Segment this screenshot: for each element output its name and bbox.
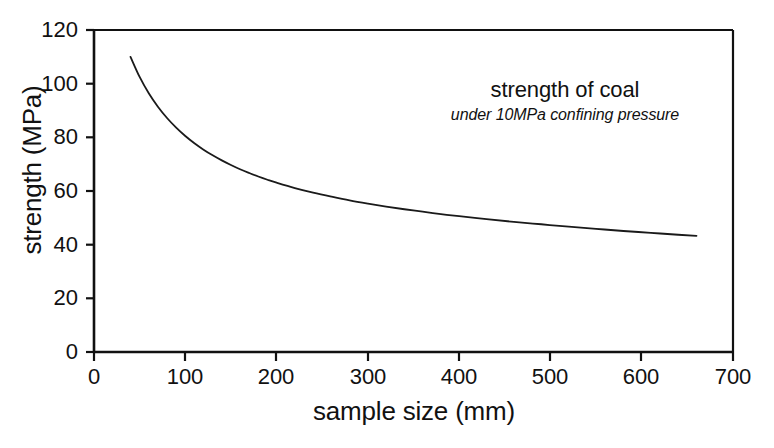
y-tick-label-80: 80 <box>16 124 78 150</box>
chart-figure-root: 120 100 80 60 40 20 0 0 100 200 300 400 … <box>0 0 774 448</box>
y-tick-label-0: 0 <box>16 339 78 365</box>
y-tick-label-20: 20 <box>16 285 78 311</box>
x-tick-label-500: 500 <box>532 364 569 390</box>
y-tick-label-100: 100 <box>16 71 78 97</box>
x-tick-label-0: 0 <box>88 364 100 390</box>
y-tick-label-40: 40 <box>16 232 78 258</box>
y-tick-label-60: 60 <box>16 178 78 204</box>
x-tick-label-400: 400 <box>441 364 478 390</box>
x-tick-label-700: 700 <box>715 364 752 390</box>
x-tick-label-600: 600 <box>623 364 660 390</box>
x-tick-label-300: 300 <box>350 364 387 390</box>
y-tick-label-120: 120 <box>16 17 78 43</box>
x-tick-label-200: 200 <box>258 364 295 390</box>
x-axis-label: sample size (mm) <box>94 396 734 427</box>
x-axis-label-text: sample size (mm) <box>313 396 515 426</box>
x-tick-label-100: 100 <box>167 364 204 390</box>
